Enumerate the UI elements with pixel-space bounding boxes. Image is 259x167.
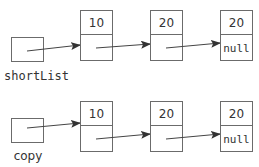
copy-reference-box (12, 119, 44, 143)
shortlist-label: shortList (4, 69, 69, 83)
copy-node-1: 10 (81, 102, 113, 152)
copy-node-3: 20 null (221, 102, 253, 152)
node-value: 20 (159, 16, 174, 30)
node-next-null: null (223, 133, 250, 146)
node-next-null: null (223, 42, 250, 55)
list-shortlist: shortList 10 20 20 null (4, 11, 253, 84)
copy-label: copy (14, 149, 43, 163)
node-value: 10 (89, 107, 104, 121)
list-copy: copy 10 20 20 null (12, 102, 253, 164)
node-value: 20 (229, 16, 244, 30)
shortlist-node-2: 20 (151, 11, 183, 61)
shortlist-node-1: 10 (81, 11, 113, 61)
node-value: 10 (89, 16, 104, 30)
node-value: 20 (159, 107, 174, 121)
linked-list-diagram: shortList 10 20 20 null copy (0, 0, 259, 167)
copy-node-2: 20 (151, 102, 183, 152)
shortlist-node-3: 20 null (221, 11, 253, 61)
node-value: 20 (229, 107, 244, 121)
